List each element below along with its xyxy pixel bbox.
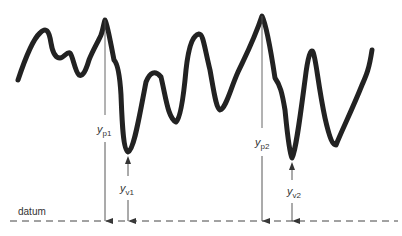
valley-1-up-arrow-icon — [125, 156, 131, 164]
yp1-label: yp1 — [96, 123, 112, 138]
yv1-label: yv1 — [119, 182, 135, 197]
yv2-label: yv2 — [286, 185, 302, 200]
yp2-label: yp2 — [254, 136, 270, 151]
surface-profile-diagram: datum yp1 yv1 yp2 yv2 — [0, 0, 402, 236]
datum-label: datum — [18, 206, 46, 217]
valley-2-up-arrow-icon — [289, 162, 295, 170]
surface-profile-curve — [18, 16, 372, 158]
